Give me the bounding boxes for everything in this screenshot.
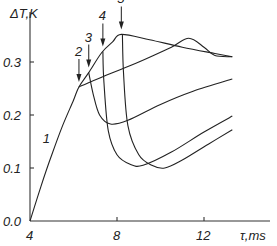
arrowhead-icon <box>100 38 105 46</box>
y-tick-label: 0.2 <box>3 108 22 123</box>
y-axis: 0.3 0.2 0.1 0.0 ΔT,K <box>3 6 39 229</box>
curve-2 <box>79 38 232 87</box>
curve-label: 2 <box>74 44 83 59</box>
curves <box>30 34 232 221</box>
arrowhead-icon <box>86 60 91 68</box>
curve-1 <box>30 34 232 221</box>
y-tick-label: 0.3 <box>3 55 22 70</box>
curve-3 <box>89 73 233 125</box>
x-axis-label: τ,ms <box>240 228 266 243</box>
curve-label: 3 <box>85 30 93 45</box>
x-axis: 4 8 12 τ,ms <box>26 217 270 243</box>
x-tick-label: 12 <box>196 228 211 243</box>
chart: 0.3 0.2 0.1 0.0 ΔT,K 4 8 12 τ,ms 12345 <box>0 0 277 246</box>
x-tick-label: 8 <box>113 228 121 243</box>
arrowhead-icon <box>76 74 81 82</box>
x-tick-label: 4 <box>26 228 33 243</box>
curve-label: 5 <box>117 0 125 6</box>
arrowhead-icon <box>119 21 124 29</box>
y-axis-label: ΔT,K <box>9 6 39 21</box>
y-tick-label: 0.1 <box>3 161 21 176</box>
y-tick-label: 0.0 <box>3 214 22 229</box>
curve-label: 1 <box>43 131 50 146</box>
curve-label: 4 <box>99 8 106 23</box>
